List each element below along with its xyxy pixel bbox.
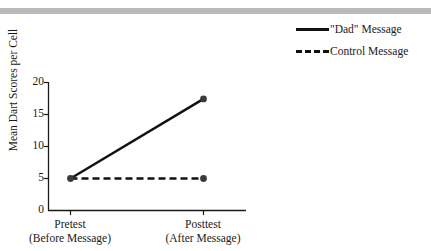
data-point-dad-posttest xyxy=(200,96,207,103)
figure-root: "Dad" Message Control Message Mean Dart … xyxy=(0,0,431,251)
x-tick-label-posttest-line1: Posttest xyxy=(185,218,221,230)
x-tick-label-pretest-line1: Pretest xyxy=(54,218,85,230)
x-tick-label-posttest: Posttest (After Message) xyxy=(165,218,240,245)
x-tick-label-pretest: Pretest (Before Message) xyxy=(29,218,111,245)
chart-canvas xyxy=(0,0,431,251)
series-line-dad-message xyxy=(71,99,204,179)
x-tick-label-pretest-line2: (Before Message) xyxy=(29,232,111,246)
data-point-control-posttest xyxy=(200,175,207,182)
plot-area: Mean Dart Scores per Cell 20 15 10 5 0 xyxy=(0,0,431,251)
data-point-pretest xyxy=(67,175,74,182)
x-tick-label-posttest-line2: (After Message) xyxy=(165,232,240,246)
